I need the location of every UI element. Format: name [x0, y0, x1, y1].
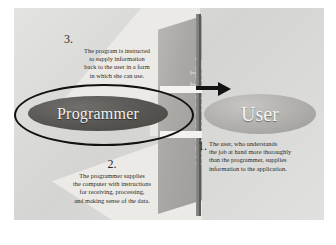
callout-1-line-3: than the programmer, supplies [209, 156, 332, 164]
callout-2-line-3: for receiving, processing, [38, 188, 186, 196]
callout-3-number: 3. [64, 33, 176, 45]
callout-1: 1. The user, who understands the job at … [198, 140, 332, 173]
callout-2: 2. The programmer supplies the computer … [38, 158, 186, 205]
callout-3-line-4: in which she can use. [58, 72, 176, 80]
user-label: User [241, 103, 279, 126]
arrow-head-to-user-icon [218, 82, 231, 96]
callout-3-line-1: The program is instructed [58, 47, 176, 55]
callout-3-line-2: to supply information [58, 55, 176, 63]
arrow-shaft-to-user [196, 86, 220, 90]
callout-1-line-4: information to the application. [209, 165, 332, 173]
callout-3: 3. The program is instructed to supply i… [58, 33, 176, 80]
callout-2-line-2: the computer with instructions [38, 180, 186, 188]
programmer-node: Programmer [28, 96, 168, 131]
callout-1-number: 1. [198, 140, 207, 152]
callout-2-line-1: The programmer supplies [38, 172, 186, 180]
callout-1-line-2: the job at hand more thoroughly [209, 148, 332, 156]
callout-3-line-3: back to the user in a form [58, 63, 176, 71]
callout-1-line-1: The user, who understands [209, 140, 332, 148]
callout-2-line-4: and making sense of the data. [38, 197, 186, 205]
programmer-label: Programmer [57, 105, 139, 123]
application-plane-edge-shadow [199, 14, 201, 216]
user-node: User [204, 94, 316, 134]
callout-2-number: 2. [38, 158, 186, 170]
diagram-figure: Application Programmer User 3. The progr… [0, 0, 336, 245]
